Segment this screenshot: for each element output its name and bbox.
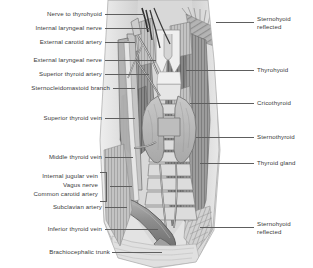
label-line-1: Sternohyoid bbox=[257, 220, 313, 228]
leader-line-subclavian-artery bbox=[105, 207, 127, 208]
label-line-2: reflected bbox=[257, 23, 313, 31]
leader-line-middle-thyroid-vein bbox=[105, 157, 133, 158]
leader-line-nerve-to-thyrohyoid bbox=[105, 14, 145, 15]
leader-line-inferior-thyroid-vein bbox=[105, 229, 158, 230]
label-brachiocephalic-trunk: Brachiocephalic trunk bbox=[0, 248, 110, 255]
label-thyroid-gland: Thyroid gland bbox=[257, 159, 313, 166]
label-sternothyroid: Sternothyroid bbox=[257, 133, 313, 140]
label-middle-thyroid-vein: Middle thyroid vein bbox=[0, 153, 102, 160]
label-common-carotid-artery: Common carotid artery bbox=[0, 190, 98, 197]
leader-line-sternocleidomastoid-branch bbox=[113, 88, 135, 89]
leader-line-sternothyroid bbox=[196, 137, 254, 138]
label-superior-thyroid-vein: Superior thyroid vein bbox=[0, 114, 102, 121]
label-external-carotid-artery: External carotid artery bbox=[0, 38, 102, 45]
label-subclavian-artery: Subclavian artery bbox=[0, 203, 102, 210]
label-superior-thyroid-artery: Superior thyroid artery bbox=[0, 70, 102, 77]
label-vagus-nerve: Vagus nerve bbox=[0, 181, 98, 188]
leader-line-sternohyoid-reflected-top bbox=[216, 22, 254, 23]
label-sternocleidomastoid-branch: Sternocleidomastoid branch bbox=[0, 84, 110, 91]
bracket-neurovascular-bundle bbox=[100, 172, 107, 202]
leader-line-internal-laryngeal-nerve bbox=[105, 28, 149, 29]
leader-line-neurovascular-bundle bbox=[110, 186, 132, 187]
label-line-1: Sternohyoid bbox=[257, 15, 313, 23]
leader-line-external-carotid-artery bbox=[105, 42, 135, 43]
label-thyrohyoid: Thyrohyoid bbox=[257, 66, 313, 73]
leader-line-external-laryngeal-nerve bbox=[105, 60, 156, 61]
leader-line-brachiocephalic-trunk bbox=[112, 252, 162, 253]
label-inferior-thyroid-vein: Inferior thyroid vein bbox=[0, 225, 102, 232]
label-external-laryngeal-nerve: External laryngeal nerve bbox=[0, 56, 102, 63]
label-cricothyroid: Cricothyroid bbox=[257, 99, 313, 106]
anatomical-figure: Nerve to thyrohyoid Internal laryngeal n… bbox=[0, 0, 313, 268]
leader-line-thyroid-gland bbox=[200, 163, 254, 164]
leader-line-cricothyroid bbox=[190, 103, 254, 104]
leader-line-superior-thyroid-artery bbox=[105, 74, 149, 75]
label-line-2: reflected bbox=[257, 228, 313, 236]
label-internal-jugular-vein: Internal jugular vein bbox=[0, 172, 98, 179]
label-internal-laryngeal-nerve: Internal laryngeal nerve bbox=[0, 24, 102, 31]
leader-line-superior-thyroid-vein bbox=[105, 118, 135, 119]
label-sternohyoid-reflected-bottom: Sternohyoid reflected bbox=[257, 220, 313, 235]
label-sternohyoid-reflected-top: Sternohyoid reflected bbox=[257, 15, 313, 30]
leader-line-thyrohyoid bbox=[186, 70, 254, 71]
label-nerve-to-thyrohyoid: Nerve to thyrohyoid bbox=[0, 10, 102, 17]
leader-line-sternohyoid-reflected-bottom bbox=[200, 227, 254, 228]
